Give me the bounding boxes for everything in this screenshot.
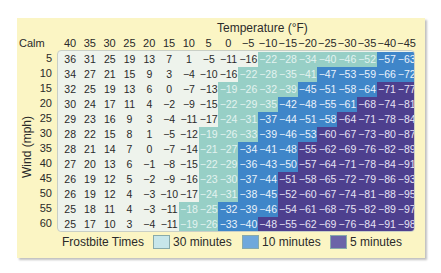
table-cell: −32: [258, 82, 278, 97]
row-label: 30: [30, 127, 52, 139]
table-cell: −41: [298, 67, 318, 82]
table-cell: −11: [218, 52, 238, 67]
row-label: 5: [30, 52, 52, 64]
table-cell: −34: [298, 52, 318, 67]
table-cell: −61: [298, 202, 318, 217]
table-cell: −1: [139, 157, 159, 172]
table-cell: −78: [377, 112, 397, 127]
table-cell: −48: [298, 97, 318, 112]
table-cell: −22: [258, 52, 278, 67]
table-cell: −22: [199, 157, 219, 172]
table-cell: 3: [139, 112, 159, 127]
table-cell: −67: [317, 187, 337, 202]
table-cell: −75: [337, 202, 357, 217]
row-label: 45: [30, 172, 52, 184]
table-cell: 10: [100, 217, 120, 232]
table-cell: 29: [60, 112, 80, 127]
table-cell: −52: [278, 187, 298, 202]
table-cell: −57: [298, 157, 318, 172]
table-cell: −63: [397, 52, 415, 67]
table-cell: −45: [258, 187, 278, 202]
table-cell: 25: [80, 82, 100, 97]
table-cell: −21: [199, 142, 219, 157]
table-cell: −71: [337, 157, 357, 172]
table-cell: −58: [337, 82, 357, 97]
table-cell: 31: [80, 52, 100, 67]
calm-label: Calm: [19, 37, 45, 49]
table-cell: −19: [199, 127, 219, 142]
column-header: 10: [179, 37, 199, 49]
table-cell: −41: [258, 142, 278, 157]
table-cell: −2: [139, 172, 159, 187]
table-cell: −18: [179, 202, 199, 217]
table-cell: −39: [258, 127, 278, 142]
table-cell: −87: [397, 127, 415, 142]
column-header: −5: [238, 37, 258, 49]
table-cell: 3: [159, 67, 179, 82]
table-cell: −51: [317, 82, 337, 97]
table-cell: 22: [80, 127, 100, 142]
table-cell: −64: [357, 82, 377, 97]
column-header: −10: [258, 37, 278, 49]
table-cell: −4: [139, 217, 159, 232]
table-cell: −59: [357, 67, 377, 82]
table-cell: −51: [278, 172, 298, 187]
table-cell: −35: [258, 97, 278, 112]
table-cell: −78: [357, 157, 377, 172]
row-label: 25: [30, 112, 52, 124]
row-label: 60: [30, 217, 52, 229]
legend-swatch-30: [153, 235, 170, 249]
table-cell: −16: [238, 52, 258, 67]
column-header: −25: [317, 37, 337, 49]
table-cell: −2: [159, 97, 179, 112]
table-cell: 0: [159, 82, 179, 97]
table-cell: −29: [238, 97, 258, 112]
table-cell: −91: [397, 157, 415, 172]
table-cell: −3: [139, 187, 159, 202]
table-cell: −68: [357, 97, 377, 112]
table-cell: −53: [298, 127, 318, 142]
table-cell: −12: [179, 127, 199, 142]
table-cell: −33: [238, 127, 258, 142]
table-cell: −17: [179, 187, 199, 202]
table-cell: −26: [199, 217, 219, 232]
table-cell: −82: [377, 142, 397, 157]
table-cell: 11: [100, 202, 120, 217]
row-label: 50: [30, 187, 52, 199]
table-cell: −52: [357, 52, 377, 67]
table-cell: −97: [397, 202, 415, 217]
column-header: 5: [199, 37, 219, 49]
table-cell: −61: [337, 97, 357, 112]
table-cell: 19: [119, 52, 139, 67]
column-header: −15: [278, 37, 298, 49]
table-cell: −40: [238, 217, 258, 232]
table-cell: 26: [60, 172, 80, 187]
table-cell: −89: [397, 142, 415, 157]
table-cell: −89: [377, 202, 397, 217]
table-cell: 0: [139, 142, 159, 157]
table-cell: −81: [397, 97, 415, 112]
table-cell: −58: [298, 172, 318, 187]
table-cell: 16: [100, 112, 120, 127]
legend-label-5: 5 minutes: [350, 235, 402, 249]
table-cell: −46: [337, 52, 357, 67]
column-header: −35: [357, 37, 377, 49]
table-cell: −69: [317, 217, 337, 232]
table-cell: −34: [238, 142, 258, 157]
table-cell: 4: [119, 202, 139, 217]
table-cell: −22: [218, 97, 238, 112]
table-cell: −36: [238, 157, 258, 172]
table-cell: −64: [317, 157, 337, 172]
table-cell: 1: [179, 52, 199, 67]
table-cell: −57: [377, 52, 397, 67]
table-cell: −40: [317, 52, 337, 67]
table-cell: −50: [278, 157, 298, 172]
table-cell: −67: [337, 127, 357, 142]
table-cell: −44: [278, 112, 298, 127]
table-cell: −30: [218, 172, 238, 187]
table-cell: −4: [179, 67, 199, 82]
column-header: 20: [139, 37, 159, 49]
table-cell: 11: [119, 97, 139, 112]
table-cell: 9: [119, 112, 139, 127]
table-cell: −82: [357, 202, 377, 217]
